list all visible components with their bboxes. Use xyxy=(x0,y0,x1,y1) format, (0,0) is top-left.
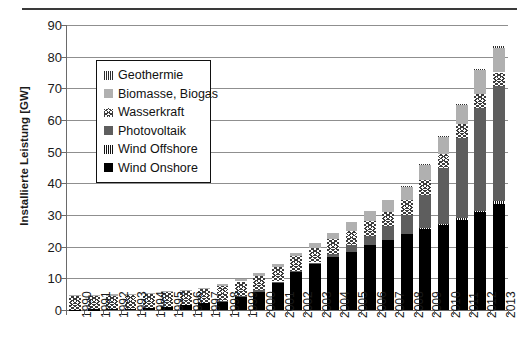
segment-photovoltaik xyxy=(438,168,450,224)
y-axis-line xyxy=(66,25,67,310)
segment-biomasse xyxy=(419,164,431,180)
bar-2004 xyxy=(327,25,339,310)
x-tick-label: 2011 xyxy=(467,292,481,318)
x-tick-mark xyxy=(213,311,214,315)
x-tick-mark xyxy=(177,311,178,315)
legend-item-photovoltaik: Photovoltaik xyxy=(104,122,204,141)
x-tick-label: 1998 xyxy=(228,291,242,318)
segment-wasserkraft xyxy=(474,94,486,108)
segment-geothermie xyxy=(438,136,450,137)
segment-photovoltaik xyxy=(382,226,394,239)
segment-wind_offshore xyxy=(438,224,450,225)
legend-label: Photovoltaik xyxy=(118,125,186,138)
x-tick-mark xyxy=(158,311,159,315)
bar-1998 xyxy=(217,25,229,310)
bar-1990 xyxy=(69,25,81,310)
segment-biomasse xyxy=(438,136,450,154)
plot-area: Installierte Leistung [GW] 0102030405060… xyxy=(0,0,517,364)
legend-label: Geothermie xyxy=(118,69,183,82)
x-tick-mark xyxy=(121,311,122,315)
bar-2011 xyxy=(456,25,468,310)
x-tick-label: 1990 xyxy=(80,291,94,318)
segment-biomasse xyxy=(493,47,505,73)
segment-wasserkraft xyxy=(290,256,302,271)
segment-photovoltaik xyxy=(327,254,339,257)
segment-wasserkraft xyxy=(438,154,450,169)
segment-photovoltaik xyxy=(474,108,486,211)
x-tick-label: 2002 xyxy=(301,291,315,318)
x-tick-mark xyxy=(434,311,435,315)
y-tick-label: 70 xyxy=(28,81,62,96)
segment-wasserkraft xyxy=(382,212,394,227)
x-tick-label: 2009 xyxy=(430,291,444,318)
x-tick-label: 2001 xyxy=(283,291,297,318)
y-tick-label: 80 xyxy=(28,49,62,64)
legend-item-geothermie: Geothermie xyxy=(104,66,204,85)
x-tick-mark xyxy=(250,311,251,315)
x-tick-label: 1995 xyxy=(172,291,186,318)
y-tick-label: 90 xyxy=(28,18,62,33)
legend-swatch-icon xyxy=(104,71,113,80)
segment-biomasse xyxy=(346,222,358,230)
legend-swatch-icon xyxy=(104,145,113,154)
x-tick-mark xyxy=(140,311,141,315)
legend-swatch-icon xyxy=(104,89,113,98)
segment-geothermie xyxy=(456,104,468,105)
segment-wasserkraft xyxy=(253,276,265,291)
x-tick-label: 1999 xyxy=(246,291,260,318)
bar-2010 xyxy=(438,25,450,310)
x-tick-mark xyxy=(195,311,196,315)
x-tick-mark xyxy=(471,311,472,315)
x-tick-label: 1994 xyxy=(154,291,168,318)
segment-geothermie xyxy=(419,164,431,165)
bar-2003 xyxy=(309,25,321,310)
segment-photovoltaik xyxy=(364,236,376,245)
legend-swatch-icon xyxy=(104,163,113,172)
x-tick-label: 1997 xyxy=(209,291,223,318)
x-tick-mark xyxy=(508,311,509,315)
segment-biomasse xyxy=(290,253,302,257)
y-tick-label: 60 xyxy=(28,113,62,128)
segment-biomasse xyxy=(401,186,413,200)
segment-biomasse xyxy=(198,288,210,290)
segment-geothermie xyxy=(401,186,413,187)
legend-label: Biomasse, Biogas xyxy=(118,88,218,101)
y-tick-label: 10 xyxy=(28,271,62,286)
bar-2007 xyxy=(382,25,394,310)
segment-wind_offshore xyxy=(474,211,486,212)
bar-2000 xyxy=(253,25,265,310)
bar-1999 xyxy=(235,25,247,310)
y-tick-label: 30 xyxy=(28,208,62,223)
legend-label: Wasserkraft xyxy=(118,106,184,119)
x-tick-label: 2010 xyxy=(449,291,463,318)
segment-wind_offshore xyxy=(419,228,431,229)
segment-biomasse xyxy=(364,211,376,221)
bar-2012 xyxy=(474,25,486,310)
x-tick-mark xyxy=(232,311,233,315)
x-tick-mark xyxy=(84,311,85,315)
segment-biomasse xyxy=(456,104,468,124)
x-tick-label: 2003 xyxy=(320,291,334,318)
bar-2008 xyxy=(401,25,413,310)
bar-2001 xyxy=(272,25,284,310)
y-tick-label: 20 xyxy=(28,239,62,254)
segment-biomasse xyxy=(309,243,321,248)
x-tick-mark xyxy=(416,311,417,315)
legend-item-wind_offshore: Wind Offshore xyxy=(104,140,204,159)
x-tick-label: 1993 xyxy=(135,291,149,318)
segment-wind_offshore xyxy=(493,201,505,204)
segment-wasserkraft xyxy=(493,73,505,87)
segment-photovoltaik xyxy=(419,195,431,229)
segment-photovoltaik xyxy=(493,86,505,201)
legend-label: Wind Onshore xyxy=(118,162,198,175)
x-tick-label: 1991 xyxy=(99,291,113,318)
x-tick-mark xyxy=(342,311,343,315)
x-tick-mark xyxy=(379,311,380,315)
chart-legend: GeothermieBiomasse, BiogasWasserkraftPho… xyxy=(96,60,211,183)
segment-wasserkraft xyxy=(401,200,413,215)
segment-photovoltaik xyxy=(456,138,468,218)
legend-swatch-icon xyxy=(104,126,113,135)
y-tick-label: 50 xyxy=(28,144,62,159)
segment-wasserkraft xyxy=(309,248,321,263)
segment-geothermie xyxy=(493,46,505,47)
